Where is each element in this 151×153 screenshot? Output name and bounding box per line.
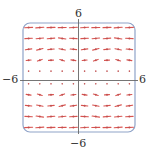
slope-point xyxy=(39,59,41,61)
slope-point xyxy=(106,27,108,29)
slope-point xyxy=(95,37,97,39)
slope-dot xyxy=(106,83,108,85)
slope-point xyxy=(28,94,30,96)
slope-point xyxy=(50,27,52,29)
slope-point xyxy=(84,37,86,39)
slope-point xyxy=(39,37,41,39)
slope-point xyxy=(128,105,130,107)
slope-point xyxy=(95,48,97,50)
slope-point xyxy=(61,105,63,107)
slope-point xyxy=(39,126,41,128)
slope-dot xyxy=(39,70,41,72)
slope-point xyxy=(106,48,108,50)
x-min-label: −6 xyxy=(2,74,18,85)
slope-point xyxy=(72,48,74,50)
slope-point xyxy=(128,126,130,128)
slope-point xyxy=(117,94,119,96)
slope-point xyxy=(61,59,63,61)
slope-point xyxy=(39,48,41,50)
slope-dot xyxy=(39,83,41,85)
x-max-label: 6 xyxy=(139,74,146,85)
slope-point xyxy=(95,59,97,61)
slope-dot xyxy=(95,70,97,72)
slope-dot xyxy=(117,70,119,72)
slope-point xyxy=(128,37,130,39)
slope-point xyxy=(72,126,74,128)
slope-point xyxy=(28,59,30,61)
slope-dot xyxy=(84,83,86,85)
slope-point xyxy=(61,48,63,50)
slope-dot xyxy=(50,70,52,72)
slope-point xyxy=(61,27,63,29)
slope-dot xyxy=(61,70,63,72)
slope-point xyxy=(106,105,108,107)
slope-dot xyxy=(129,83,131,85)
slope-point xyxy=(84,94,86,96)
slope-point xyxy=(117,48,119,50)
slope-dot xyxy=(117,83,119,85)
slope-point xyxy=(50,94,52,96)
slope-point xyxy=(28,37,30,39)
slope-point xyxy=(72,116,74,118)
slope-point xyxy=(106,59,108,61)
y-max-label: 6 xyxy=(75,8,82,19)
slope-point xyxy=(106,94,108,96)
slope-dot xyxy=(73,70,75,72)
slope-field-plot xyxy=(0,0,151,153)
slope-point xyxy=(84,105,86,107)
slope-point xyxy=(95,126,97,128)
slope-point xyxy=(95,94,97,96)
slope-point xyxy=(106,126,108,128)
slope-point xyxy=(106,37,108,39)
slope-point xyxy=(72,27,74,29)
slope-point xyxy=(84,116,86,118)
y-min-label: −6 xyxy=(70,138,86,149)
slope-point xyxy=(28,105,30,107)
slope-dot xyxy=(61,83,63,85)
slope-point xyxy=(50,126,52,128)
slope-point xyxy=(117,105,119,107)
slope-dot xyxy=(95,83,97,85)
slope-point xyxy=(28,48,30,50)
slope-point xyxy=(84,48,86,50)
slope-point xyxy=(117,27,119,29)
slope-point xyxy=(84,27,86,29)
slope-point xyxy=(50,105,52,107)
slope-point xyxy=(117,37,119,39)
slope-dot xyxy=(73,83,75,85)
slope-point xyxy=(50,116,52,118)
slope-point xyxy=(28,27,30,29)
slope-dot xyxy=(50,83,52,85)
slope-point xyxy=(39,116,41,118)
slope-point xyxy=(106,116,108,118)
slope-point xyxy=(72,59,74,61)
slope-point xyxy=(50,48,52,50)
slope-point xyxy=(61,94,63,96)
slope-point xyxy=(84,59,86,61)
slope-point xyxy=(50,37,52,39)
slope-point xyxy=(128,116,130,118)
slope-point xyxy=(128,94,130,96)
slope-point xyxy=(39,27,41,29)
slope-point xyxy=(61,37,63,39)
slope-point xyxy=(117,59,119,61)
slope-point xyxy=(61,116,63,118)
slope-point xyxy=(72,105,74,107)
slope-point xyxy=(28,116,30,118)
slope-point xyxy=(39,94,41,96)
slope-dot xyxy=(84,70,86,72)
slope-point xyxy=(72,37,74,39)
slope-point xyxy=(61,126,63,128)
slope-point xyxy=(28,126,30,128)
slope-point xyxy=(128,27,130,29)
slope-point xyxy=(95,116,97,118)
slope-point xyxy=(84,126,86,128)
slope-point xyxy=(50,59,52,61)
slope-point xyxy=(117,126,119,128)
slope-dot xyxy=(106,70,108,72)
slope-point xyxy=(117,116,119,118)
slope-point xyxy=(95,105,97,107)
slope-dot xyxy=(28,83,30,85)
slope-point xyxy=(95,27,97,29)
slope-dot xyxy=(129,70,131,72)
